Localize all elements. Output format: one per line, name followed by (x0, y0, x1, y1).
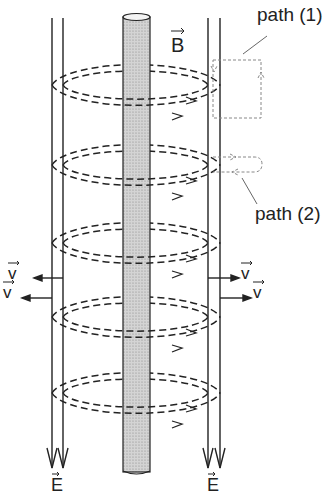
velocity-label-left-2: v (3, 283, 12, 303)
path-2-label: path (2) (255, 203, 320, 225)
b-field-label: B (171, 34, 184, 57)
capacitor-field-diagram (0, 0, 335, 500)
path-1-label: path (1) (257, 4, 322, 26)
e-field-label-left: E (51, 475, 63, 496)
velocity-label-right-1: v (241, 264, 250, 284)
e-field-label-right: E (207, 475, 219, 496)
path-1-leader (243, 36, 267, 54)
path-1-loop (211, 60, 264, 118)
velocity-label-right-2: v (253, 283, 262, 303)
velocity-label-left-1: v (8, 264, 17, 284)
wire-rod (123, 14, 150, 475)
path-2-leader (242, 178, 257, 204)
